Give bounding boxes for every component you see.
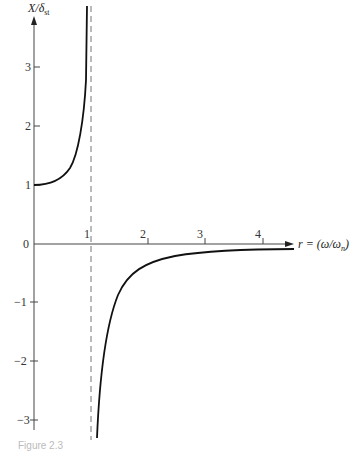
- curve-below-resonance: [34, 6, 87, 185]
- x-axis-title: r = (ω/ωn): [298, 237, 349, 253]
- frequency-response-chart: 3 2 1 0 −1 −2 −3 1 2 3 4 X/δst r = (ω/ωn…: [0, 0, 364, 458]
- y-axis-title: X/δst: [27, 1, 50, 17]
- x-ticks: [148, 238, 263, 244]
- x-tick-2: 2: [140, 227, 146, 241]
- x-axis-arrow-icon: [285, 241, 294, 247]
- figure-caption: Figure 2.3: [18, 440, 63, 451]
- x-tick-1: 1: [84, 227, 90, 241]
- y-tick-3: 3: [25, 60, 31, 74]
- y-tick-neg2: −2: [14, 354, 27, 368]
- curve-above-resonance: [97, 249, 294, 438]
- origin-label: 0: [23, 237, 29, 251]
- y-axis-arrow-icon: [31, 16, 37, 25]
- y-tick-1: 1: [25, 178, 31, 192]
- y-tick-neg1: −1: [14, 295, 27, 309]
- y-tick-neg3: −3: [17, 413, 30, 427]
- y-tick-2: 2: [25, 119, 31, 133]
- x-tick-4: 4: [255, 227, 261, 241]
- x-tick-3: 3: [197, 227, 203, 241]
